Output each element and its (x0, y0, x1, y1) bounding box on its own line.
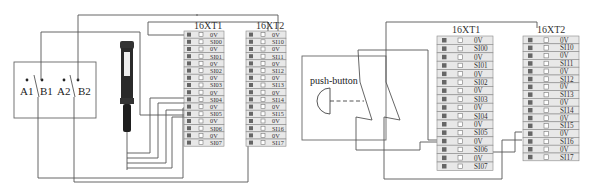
sensor-lead-1 (127, 98, 187, 153)
push-button-box (302, 56, 386, 140)
svg-text:SI15: SI15 (272, 110, 284, 117)
terminal-block-16xt1-right: 16XT1 0V SI00 0V SI01 0V SI02 0V SI03 0V… (437, 24, 493, 171)
terminal-row: 0V (184, 45, 224, 52)
terminal-row: 0V (523, 52, 579, 61)
terminal-row: 0V (246, 117, 286, 124)
svg-text:SI16: SI16 (560, 138, 574, 146)
svg-text:SI17: SI17 (272, 139, 284, 146)
svg-text:SI12: SI12 (560, 76, 574, 84)
terminal-row: 0V (523, 67, 579, 76)
switch-label-a2: A2 (57, 85, 70, 97)
terminal-row: SI02 (184, 67, 224, 74)
svg-text:0V: 0V (560, 68, 570, 76)
terminal-block-title: 16XT2 (256, 20, 284, 31)
terminal-row: 0V (437, 120, 493, 129)
terminal-row: SI11 (246, 53, 286, 60)
svg-text:SI02: SI02 (474, 79, 488, 87)
terminal-row: 0V (523, 98, 579, 107)
terminal-row: 0V (184, 103, 224, 110)
terminal-row: SI15 (523, 122, 579, 131)
terminal-row: SI17 (523, 153, 579, 162)
svg-text:SI03: SI03 (474, 96, 488, 104)
switch-label-b1: B1 (40, 85, 53, 97)
terminal-row: 0V (437, 154, 493, 163)
terminal-row: SI03 (437, 95, 493, 104)
svg-text:0V: 0V (474, 54, 484, 62)
terminal-row: 0V (184, 31, 224, 38)
wire-common-top (148, 22, 187, 35)
pb-wire-1 (358, 50, 437, 140)
pb-wire-3 (356, 117, 437, 150)
svg-text:0V: 0V (210, 31, 218, 38)
switch-contacts: A1 B1 A2 B2 (20, 75, 91, 97)
pb-contact-1 (360, 82, 372, 120)
terminal-row: SI01 (437, 61, 493, 70)
svg-text:0V: 0V (210, 132, 218, 139)
svg-text:0V: 0V (560, 37, 570, 45)
terminal-row: 0V (246, 132, 286, 139)
wire-a2 (74, 97, 257, 182)
terminal-row: SI10 (246, 38, 286, 45)
contact-a2-dot (63, 79, 66, 82)
switch-blade-2 (70, 75, 75, 97)
terminal-row: 0V (184, 89, 224, 96)
svg-text:SI01: SI01 (210, 53, 222, 60)
terminal-row: SI12 (246, 67, 286, 74)
terminal-row: 0V (184, 74, 224, 81)
svg-text:SI07: SI07 (474, 163, 488, 171)
svg-text:SI13: SI13 (272, 81, 284, 88)
svg-text:0V: 0V (272, 132, 280, 139)
terminal-row: 0V (523, 36, 579, 45)
svg-text:0V: 0V (474, 121, 484, 129)
terminal-row: SI00 (184, 38, 224, 45)
terminal-row: 0V (184, 117, 224, 124)
switch-label-a1: A1 (20, 85, 33, 97)
svg-text:SI07: SI07 (210, 139, 222, 146)
terminal-row: SI03 (184, 81, 224, 88)
svg-text:0V: 0V (474, 87, 484, 95)
terminal-row: 0V (523, 114, 579, 123)
svg-text:0V: 0V (474, 71, 484, 79)
terminal-row: SI01 (184, 53, 224, 60)
svg-text:SI00: SI00 (210, 38, 222, 45)
svg-text:0V: 0V (560, 83, 570, 91)
svg-text:SI10: SI10 (272, 38, 284, 45)
terminal-row: SI07 (437, 162, 493, 171)
terminal-row: SI04 (437, 112, 493, 121)
svg-text:0V: 0V (560, 99, 570, 107)
svg-text:0V: 0V (272, 74, 280, 81)
svg-text:SI03: SI03 (210, 81, 222, 88)
pb-contact-2 (386, 82, 400, 120)
terminal-row: SI14 (246, 96, 286, 103)
terminal-rows: 0V SI10 0V SI11 0V SI12 0V SI13 0V SI14 … (246, 31, 286, 146)
svg-text:SI11: SI11 (560, 60, 574, 68)
svg-text:SI11: SI11 (272, 53, 284, 60)
svg-text:0V: 0V (272, 31, 280, 38)
terminal-row: SI11 (523, 59, 579, 68)
svg-text:SI04: SI04 (210, 96, 223, 103)
svg-text:0V: 0V (474, 104, 484, 112)
terminal-row: SI10 (523, 44, 579, 53)
svg-text:SI06: SI06 (474, 146, 488, 154)
svg-text:0V: 0V (474, 37, 484, 45)
terminal-row: SI15 (246, 110, 286, 117)
svg-text:SI15: SI15 (560, 122, 574, 130)
terminal-row: SI06 (437, 145, 493, 154)
terminal-row: 0V (437, 53, 493, 62)
terminal-row: 0V (523, 83, 579, 92)
terminal-row: 0V (437, 36, 493, 45)
svg-text:0V: 0V (272, 45, 280, 52)
terminal-row: 0V (523, 145, 579, 154)
terminal-row: 0V (437, 137, 493, 146)
terminal-row: 0V (246, 45, 286, 52)
svg-text:SI02: SI02 (210, 67, 222, 74)
contact-a1-dot (26, 79, 29, 82)
terminal-row: 0V (246, 31, 286, 38)
terminal-block-16xt1-left: 16XT1 0V SI00 0V SI01 0V SI02 0V SI03 0V… (184, 20, 224, 146)
svg-text:SI12: SI12 (272, 67, 284, 74)
svg-text:0V: 0V (210, 45, 218, 52)
svg-text:SI05: SI05 (210, 110, 222, 117)
terminal-rows: 0V SI00 0V SI01 0V SI02 0V SI03 0V SI04 … (184, 31, 224, 146)
terminal-row: 0V (437, 103, 493, 112)
terminal-row: SI14 (523, 106, 579, 115)
